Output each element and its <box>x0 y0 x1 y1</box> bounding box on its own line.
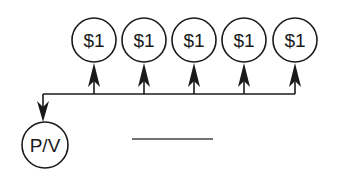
cash-flow-diagram: $1$1$1$1$1 P/V <box>0 0 339 182</box>
cash-flow-node: $1 <box>273 18 317 94</box>
cash-flow-label: $1 <box>183 30 204 51</box>
diagram-svg: $1$1$1$1$1 P/V <box>0 0 339 182</box>
pv-label: P/V <box>30 135 61 156</box>
cash-flow-node: $1 <box>172 18 216 94</box>
cash-flow-node: $1 <box>72 18 116 94</box>
present-value-node: P/V <box>22 122 68 168</box>
cash-flow-label: $1 <box>233 30 254 51</box>
cash-flow-node: $1 <box>222 18 266 94</box>
cash-flow-node: $1 <box>122 18 166 94</box>
cash-flow-label: $1 <box>284 30 305 51</box>
cash-flow-nodes: $1$1$1$1$1 <box>72 18 317 94</box>
cash-flow-label: $1 <box>133 30 154 51</box>
cash-flow-label: $1 <box>83 30 104 51</box>
